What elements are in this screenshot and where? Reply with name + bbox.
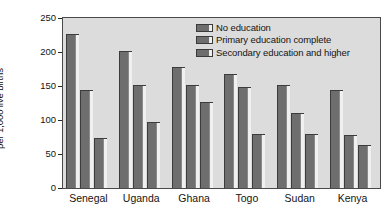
bar — [80, 90, 93, 188]
y-axis-tick-label: 100 — [30, 115, 56, 125]
y-axis-tick-label: 0 — [30, 183, 56, 193]
legend-item: Primary education complete — [196, 35, 376, 46]
x-axis-category-label: Senegal — [62, 192, 115, 205]
legend-swatch-icon — [196, 49, 213, 57]
legend-item: No education — [196, 22, 376, 33]
y-axis-tick-labels: 050100150200250 — [30, 17, 56, 189]
y-axis-tick-label: 250 — [30, 13, 56, 23]
bar — [94, 138, 107, 188]
bar — [119, 51, 132, 188]
bar — [186, 85, 199, 188]
bar — [358, 145, 371, 188]
bar — [252, 134, 265, 188]
legend-label: No education — [216, 23, 271, 33]
legend-item: Secondary education and higher — [196, 47, 376, 58]
bar — [133, 85, 146, 188]
x-axis-category-label: Togo — [221, 192, 274, 205]
y-axis-tick-label: 200 — [30, 47, 56, 57]
legend: No educationPrimary education completeSe… — [196, 22, 376, 60]
x-axis-category-label: Kenya — [326, 192, 379, 205]
chart-container: Under-5 mortality rate per 1,000 live bi… — [0, 0, 389, 217]
y-axis-tick-label: 150 — [30, 81, 56, 91]
bar — [277, 85, 290, 188]
bar — [305, 134, 318, 188]
bar — [238, 87, 251, 188]
legend-swatch-icon — [196, 24, 213, 32]
x-axis-category-label: Uganda — [115, 192, 168, 205]
y-axis-title: Under-5 mortality rate per 1,000 live bi… — [0, 0, 34, 217]
legend-label: Secondary education and higher — [216, 48, 350, 58]
bar — [330, 90, 343, 188]
bar — [66, 34, 79, 188]
x-axis-category-label: Ghana — [168, 192, 221, 205]
bar — [147, 122, 160, 188]
legend-swatch-icon — [196, 36, 213, 44]
bar — [224, 74, 237, 188]
legend-label: Primary education complete — [216, 35, 331, 45]
y-axis-title-line-2: per 1,000 live births — [0, 64, 6, 154]
bar — [344, 135, 357, 188]
x-axis-category-label: Sudan — [273, 192, 326, 205]
bar — [291, 113, 304, 188]
bar — [172, 67, 185, 188]
x-axis-category-labels: SenegalUgandaGhanaTogoSudanKenya — [62, 192, 381, 208]
bar — [200, 102, 213, 188]
y-axis-tick-label: 50 — [30, 149, 56, 159]
